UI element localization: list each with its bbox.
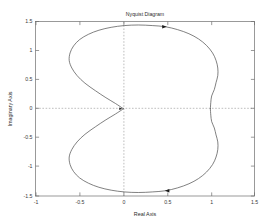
x-tick-label: -1 [34,199,39,205]
x-tick-label: -0.5 [75,199,84,205]
x-tick-label: 1.5 [251,199,258,205]
y-axis-label: Imaginary Axis [7,91,13,126]
y-tick-label: -0.5 [24,134,33,140]
y-tick-label: -1.5 [24,193,33,199]
y-tick-label: 0.5 [25,76,32,82]
x-axis-label: Real Axis [134,211,157,217]
x-tick-label: 1 [210,199,213,205]
x-tick-label: 0.5 [164,199,171,205]
y-tick-label: 1.5 [25,18,32,24]
y-tick-label: 0 [30,105,33,111]
y-tick-label: 1 [30,47,33,53]
page-title: Nyquist Diagram [126,11,164,17]
nyquist-figure: Nyquist Diagram -1 -0.5 0 [0,0,276,224]
x-tick-label: 0 [122,199,125,205]
y-tick-label: -1 [28,163,33,169]
figure-background [0,0,276,224]
